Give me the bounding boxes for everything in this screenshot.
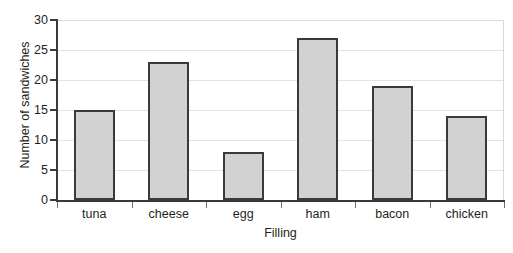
bar-egg — [223, 152, 264, 200]
x-axis-tick-label-bacon: bacon — [355, 205, 430, 223]
y-axis-tick-label: 20 — [4, 74, 48, 86]
y-axis-tick-label-wrap: 25 — [0, 44, 48, 56]
bar-ham — [297, 38, 338, 200]
gridline — [57, 80, 503, 81]
x-axis-tick — [57, 202, 58, 208]
x-axis-tick — [281, 202, 282, 208]
x-axis-tick-label-chicken: chicken — [430, 205, 505, 223]
gridline — [57, 50, 503, 51]
x-axis-tick-label-tuna: tuna — [57, 205, 132, 223]
bar-chicken — [446, 116, 487, 200]
y-axis-tick-label: 5 — [4, 164, 48, 176]
bar-cheese — [148, 62, 189, 200]
y-axis-tick-label: 10 — [4, 134, 48, 146]
y-axis-tick-label: 25 — [4, 44, 48, 56]
gridline — [57, 170, 503, 171]
gridline — [57, 140, 503, 141]
x-axis-tick-label-ham: ham — [281, 205, 356, 223]
bar-tuna — [74, 110, 115, 200]
y-axis-tick-label-wrap: 5 — [0, 164, 48, 176]
y-axis-tick-label: 0 — [4, 194, 48, 206]
y-axis-tick-group: 051015202530 — [0, 0, 57, 253]
y-axis-spine — [56, 19, 58, 201]
x-axis-tick — [430, 202, 431, 208]
plot-area — [57, 20, 504, 200]
gridline — [57, 110, 503, 111]
bar-chart-figure: Number of sandwiches 051015202530 Fillin… — [0, 0, 513, 253]
x-axis-tick-label-cheese: cheese — [132, 205, 207, 223]
y-axis-tick-label: 30 — [4, 14, 48, 26]
gridline — [57, 20, 503, 21]
x-axis-tick — [132, 202, 133, 208]
x-axis-tick — [355, 202, 356, 208]
x-axis-tick-label-egg: egg — [206, 205, 281, 223]
y-axis-tick-label-wrap: 10 — [0, 134, 48, 146]
y-axis-tick-label-wrap: 20 — [0, 74, 48, 86]
bar-bacon — [372, 86, 413, 200]
y-axis-tick-label: 15 — [4, 104, 48, 116]
y-axis-tick-label-wrap: 15 — [0, 104, 48, 116]
x-axis-tick — [504, 202, 505, 208]
y-axis-tick-label-wrap: 30 — [0, 14, 48, 26]
y-axis-tick-label-wrap: 0 — [0, 194, 48, 206]
x-axis-title: Filling — [57, 226, 504, 240]
x-axis-tick — [206, 202, 207, 208]
